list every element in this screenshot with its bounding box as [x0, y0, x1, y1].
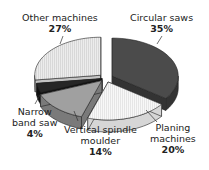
label-circular-pct: 35%: [130, 23, 193, 34]
label-spindle-name2: moulder: [64, 135, 137, 146]
label-narrow-band-saw: Narrow band saw 4%: [12, 106, 57, 139]
label-planing-name1: Planing: [150, 122, 196, 133]
label-narrow-name2: band saw: [12, 117, 57, 128]
label-vertical-spindle: Vertical spindle moulder 14%: [64, 124, 137, 157]
label-narrow-pct: 4%: [12, 128, 57, 139]
label-planing-pct: 20%: [150, 144, 196, 155]
label-other-name: Other machines: [22, 12, 98, 23]
label-spindle-name1: Vertical spindle: [64, 124, 137, 135]
label-other-machines: Other machines 27%: [22, 12, 98, 34]
label-planing-machines: Planing machines 20%: [150, 122, 196, 155]
label-planing-name2: machines: [150, 133, 196, 144]
label-other-pct: 27%: [22, 23, 98, 34]
label-narrow-name1: Narrow: [12, 106, 57, 117]
label-spindle-pct: 14%: [64, 146, 137, 157]
label-circular-saws: Circular saws 35%: [130, 12, 193, 34]
label-circular-name: Circular saws: [130, 12, 193, 23]
